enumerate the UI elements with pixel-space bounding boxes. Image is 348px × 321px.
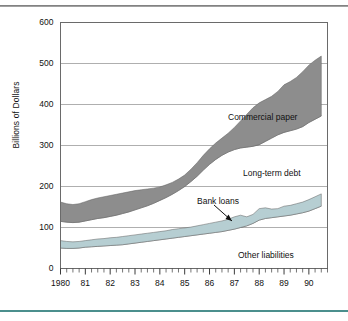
area-band-commercial-paper bbox=[61, 56, 322, 222]
x-tick-label-82: 82 bbox=[102, 279, 118, 288]
series-label-long-term-debt: Long-term debt bbox=[243, 168, 301, 178]
x-tick-label-86: 86 bbox=[202, 279, 218, 288]
x-tick-label-87: 87 bbox=[226, 279, 242, 288]
y-tick-label-0: 0 bbox=[28, 264, 54, 273]
x-tick-label-85: 85 bbox=[177, 279, 193, 288]
y-tick-label-600: 600 bbox=[28, 18, 54, 27]
series-label-other-liabilities: Other liabilities bbox=[238, 250, 294, 260]
series-label-commercial-paper: Commercial paper bbox=[228, 112, 297, 122]
x-tick-label-84: 84 bbox=[152, 279, 168, 288]
figure-container: Billions of Dollars 0100200300400500600 … bbox=[0, 0, 348, 321]
series-label-bank-loans: Bank loans bbox=[197, 196, 239, 206]
x-tick-label-89: 89 bbox=[276, 279, 292, 288]
y-tick-label-400: 400 bbox=[28, 100, 54, 109]
y-tick-label-300: 300 bbox=[28, 141, 54, 150]
y-tick-label-100: 100 bbox=[28, 223, 54, 232]
x-tick-label-81: 81 bbox=[77, 279, 93, 288]
stacked-areas-group bbox=[61, 56, 322, 248]
y-tick-label-200: 200 bbox=[28, 182, 54, 191]
x-tick-label-90: 90 bbox=[301, 279, 317, 288]
x-tick-label-1980: 1980 bbox=[46, 279, 76, 288]
x-tick-label-83: 83 bbox=[127, 279, 143, 288]
x-tick-label-88: 88 bbox=[251, 279, 267, 288]
bank-loans-arrow bbox=[214, 205, 232, 221]
y-tick-label-500: 500 bbox=[28, 59, 54, 68]
x-axis-ticks bbox=[61, 269, 328, 275]
